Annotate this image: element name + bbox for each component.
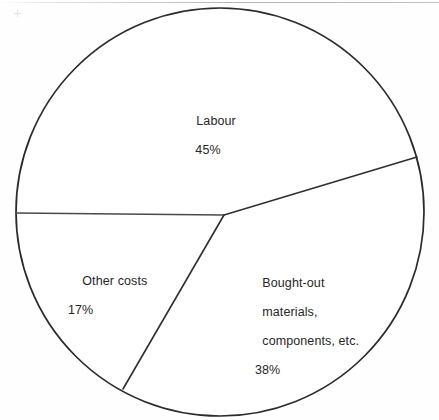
pie-outline [16, 8, 424, 416]
pie-slice-label-bought-out-percent: 38% [248, 363, 359, 378]
pie-slice-label-other-costs-title: Other costs [82, 274, 147, 288]
pie-chart-figure: Labour 45% Other costs 17% Bought-out ma… [0, 0, 439, 420]
pie-chart-svg [0, 0, 439, 420]
pie-slice-label-other-costs-percent: 17% [68, 303, 147, 318]
pie-slice-label-labour-percent: 45% [182, 143, 234, 158]
pie-slice-label-bought-out-line1: Bought-out [262, 276, 324, 290]
pie-slice-label-bought-out-line3: components, etc. [262, 334, 359, 348]
pie-slice-label-bought-out-line2: materials, [262, 305, 317, 319]
pie-slice-label-bought-out: Bought-out materials, components, etc. 3… [248, 261, 359, 406]
pie-slice-label-labour: Labour 45% [182, 99, 234, 186]
pie-slice-label-other-costs: Other costs 17% [68, 259, 147, 346]
pie-slice-label-labour-title: Labour [196, 114, 236, 128]
